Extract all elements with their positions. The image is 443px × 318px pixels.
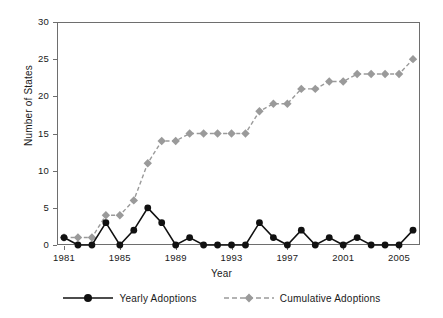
legend-label-cumulative: Cumulative Adoptions <box>280 293 381 304</box>
data-point-marker <box>284 242 291 249</box>
series-layer <box>0 0 443 318</box>
data-point-marker <box>199 129 207 137</box>
series-cumulative-adoptions <box>60 55 417 242</box>
data-point-marker <box>171 137 179 145</box>
data-point-marker <box>353 70 361 78</box>
legend-item-cumulative: Cumulative Adoptions <box>223 292 381 304</box>
data-point-marker <box>185 129 193 137</box>
data-point-marker <box>116 211 124 219</box>
data-point-marker <box>130 196 138 204</box>
data-point-marker <box>172 242 179 249</box>
legend-label-yearly: Yearly Adoptions <box>119 293 196 304</box>
data-point-marker <box>340 242 347 249</box>
data-point-marker <box>74 233 82 241</box>
data-point-marker <box>410 227 417 234</box>
data-point-marker <box>367 70 375 78</box>
data-point-marker <box>354 234 361 241</box>
data-point-marker <box>89 242 96 249</box>
data-point-marker <box>61 234 68 241</box>
data-point-marker <box>256 219 263 226</box>
data-point-marker <box>186 234 193 241</box>
data-point-marker <box>158 137 166 145</box>
data-point-marker <box>270 234 277 241</box>
data-point-marker <box>326 234 333 241</box>
data-point-marker <box>269 100 277 108</box>
data-point-marker <box>116 242 123 249</box>
data-point-marker <box>144 204 151 211</box>
data-point-marker <box>144 159 152 167</box>
data-point-marker <box>102 219 109 226</box>
data-point-marker <box>255 107 263 115</box>
data-point-marker <box>228 242 235 249</box>
data-point-marker <box>382 242 389 249</box>
data-point-marker <box>102 211 110 219</box>
data-point-marker <box>158 219 165 226</box>
chart-container: Number of States Year 051015202530 19811… <box>0 0 443 318</box>
data-point-marker <box>241 129 249 137</box>
legend-swatch-yearly-icon <box>62 292 114 304</box>
data-point-marker <box>75 242 82 249</box>
data-point-marker <box>368 242 375 249</box>
data-point-marker <box>214 242 221 249</box>
series-line <box>64 59 413 237</box>
data-point-marker <box>395 70 403 78</box>
data-point-marker <box>200 242 207 249</box>
data-point-marker <box>213 129 221 137</box>
data-point-marker <box>381 70 389 78</box>
data-point-marker <box>298 227 305 234</box>
series-line <box>64 208 413 245</box>
data-point-marker <box>325 77 333 85</box>
data-point-marker <box>339 77 347 85</box>
data-point-marker <box>409 55 417 63</box>
data-point-marker <box>396 242 403 249</box>
data-point-marker <box>312 242 319 249</box>
data-point-marker <box>242 242 249 249</box>
chart-legend: Yearly Adoptions Cumulative Adoptions <box>0 292 443 304</box>
data-point-marker <box>311 85 319 93</box>
legend-swatch-cumulative-icon <box>223 292 275 304</box>
legend-item-yearly: Yearly Adoptions <box>62 292 196 304</box>
data-point-marker <box>227 129 235 137</box>
series-yearly-adoptions <box>61 204 417 248</box>
data-point-marker <box>130 227 137 234</box>
